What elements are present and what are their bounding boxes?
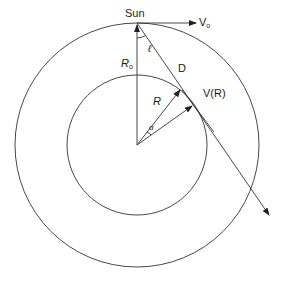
radius-vector-2 [137, 106, 192, 145]
vr-label: V(R) [203, 87, 226, 99]
r0-label: Ro [121, 57, 133, 70]
ell-angle-arc [137, 36, 146, 39]
alpha-angle-arc [147, 132, 151, 135]
alpha-label: α [149, 123, 154, 132]
d-label: D [178, 62, 186, 74]
r-label: R [153, 95, 161, 107]
v0-label: Vo [199, 16, 210, 29]
ell-label: ℓ [147, 43, 152, 54]
sun-label: Sun [125, 7, 145, 19]
galactic-rotation-diagram: Sun Vo Ro ℓ D R V(R) α [0, 0, 282, 282]
